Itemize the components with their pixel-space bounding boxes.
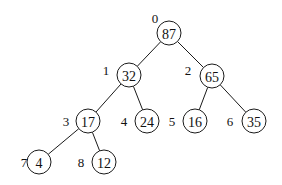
tree-edge (48, 129, 79, 155)
tree-edge (96, 84, 121, 112)
tree-edge (220, 85, 246, 112)
heap-tree-diagram: 87032165217324416535647128 (0, 0, 282, 185)
node-index-label: 7 (21, 155, 28, 170)
tree-node: 173 (63, 109, 100, 133)
tree-edge (92, 132, 99, 151)
tree-node: 321 (103, 63, 141, 88)
node-index-label: 2 (185, 63, 192, 78)
node-index-label: 8 (78, 155, 85, 170)
node-index-label: 0 (152, 11, 159, 26)
tree-edge (137, 42, 160, 67)
node-index-label: 5 (169, 114, 176, 129)
tree-edges (48, 41, 246, 154)
node-value: 17 (81, 115, 95, 130)
tree-nodes: 87032165217324416535647128 (21, 11, 266, 175)
tree-edge (199, 87, 208, 110)
tree-node: 128 (78, 150, 116, 174)
tree-node: 870 (152, 11, 181, 46)
node-value: 12 (97, 156, 111, 171)
node-value: 87 (162, 27, 176, 42)
tree-node: 652 (185, 63, 224, 89)
node-value: 35 (247, 115, 261, 130)
tree-node: 47 (21, 150, 51, 174)
tree-node: 165 (169, 109, 207, 133)
node-value: 4 (36, 156, 43, 171)
node-value: 65 (205, 70, 219, 85)
node-index-label: 4 (121, 114, 128, 129)
node-value: 16 (188, 115, 202, 130)
tree-node: 244 (121, 109, 159, 133)
tree-node: 356 (227, 109, 266, 133)
node-value: 32 (122, 69, 136, 84)
node-index-label: 1 (103, 63, 110, 78)
node-value: 24 (140, 115, 154, 130)
node-index-label: 6 (227, 114, 234, 129)
node-index-label: 3 (63, 114, 70, 129)
tree-edge (133, 86, 142, 110)
